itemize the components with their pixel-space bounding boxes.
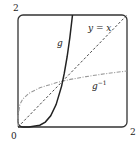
identity-label: y = x [87,23,111,33]
g-inverse-curve [18,71,127,127]
x-max-label: 2 [130,127,136,137]
origin-label: 0 [11,131,17,141]
function-inverse-chart: 2 2 0 g y = x g−1 [0,0,140,144]
g-curve [18,15,73,127]
g-label: g [57,38,63,48]
y-max-label: 2 [13,3,19,13]
g-inverse-label: g−1 [92,79,107,91]
